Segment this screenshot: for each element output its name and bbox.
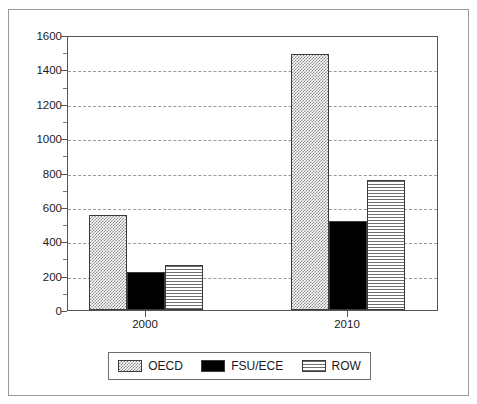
legend-entry-oecd[interactable]: OECD	[118, 359, 183, 373]
y-tick-label-0: 0	[4, 305, 62, 317]
legend-label: ROW	[332, 359, 361, 373]
y-tick-label-1600: 1600	[4, 30, 62, 42]
y-tick-label-1200: 1200	[4, 99, 62, 111]
bar-row-2010	[367, 180, 405, 310]
x-axis-tick-labels: 20002010	[67, 318, 438, 336]
bar-row-2000	[165, 265, 203, 310]
gridline-1400	[68, 71, 437, 72]
y-tick-label-1000: 1000	[4, 133, 62, 145]
y-axis-tick-labels: 02004006008001000120014001600	[0, 36, 62, 311]
legend-label: OECD	[148, 359, 183, 373]
gridline-800	[68, 175, 437, 176]
legend-entry-fsu-ece[interactable]: FSU/ECE	[201, 359, 283, 373]
chart-legend: OECDFSU/ECEROW	[108, 352, 371, 380]
y-tick-label-400: 400	[4, 236, 62, 248]
y-axis-ticks	[60, 36, 67, 311]
legend-swatch-checker-icon	[118, 360, 142, 372]
x-tick-label-2000: 2000	[132, 318, 158, 330]
chart-figure: 02004006008001000120014001600 20002010 O…	[0, 0, 477, 404]
bar-fsu-ece-2000	[127, 272, 165, 310]
x-tick-2000	[145, 311, 146, 317]
plot-area	[67, 36, 438, 311]
y-tick-label-600: 600	[4, 202, 62, 214]
gridline-1200	[68, 106, 437, 107]
legend-label: FSU/ECE	[231, 359, 283, 373]
gridline-1000	[68, 140, 437, 141]
bar-fsu-ece-2010	[329, 221, 367, 310]
bar-oecd-2000	[89, 215, 127, 310]
y-tick-label-800: 800	[4, 168, 62, 180]
x-tick-label-2010: 2010	[334, 318, 360, 330]
legend-swatch-solid-icon	[201, 360, 225, 372]
y-tick-label-1400: 1400	[4, 64, 62, 76]
y-tick-label-200: 200	[4, 271, 62, 283]
legend-entry-row[interactable]: ROW	[302, 359, 361, 373]
legend-swatch-hlines-icon	[302, 360, 326, 372]
bar-oecd-2010	[291, 54, 329, 310]
x-tick-2010	[347, 311, 348, 317]
x-axis-ticks	[67, 311, 438, 317]
